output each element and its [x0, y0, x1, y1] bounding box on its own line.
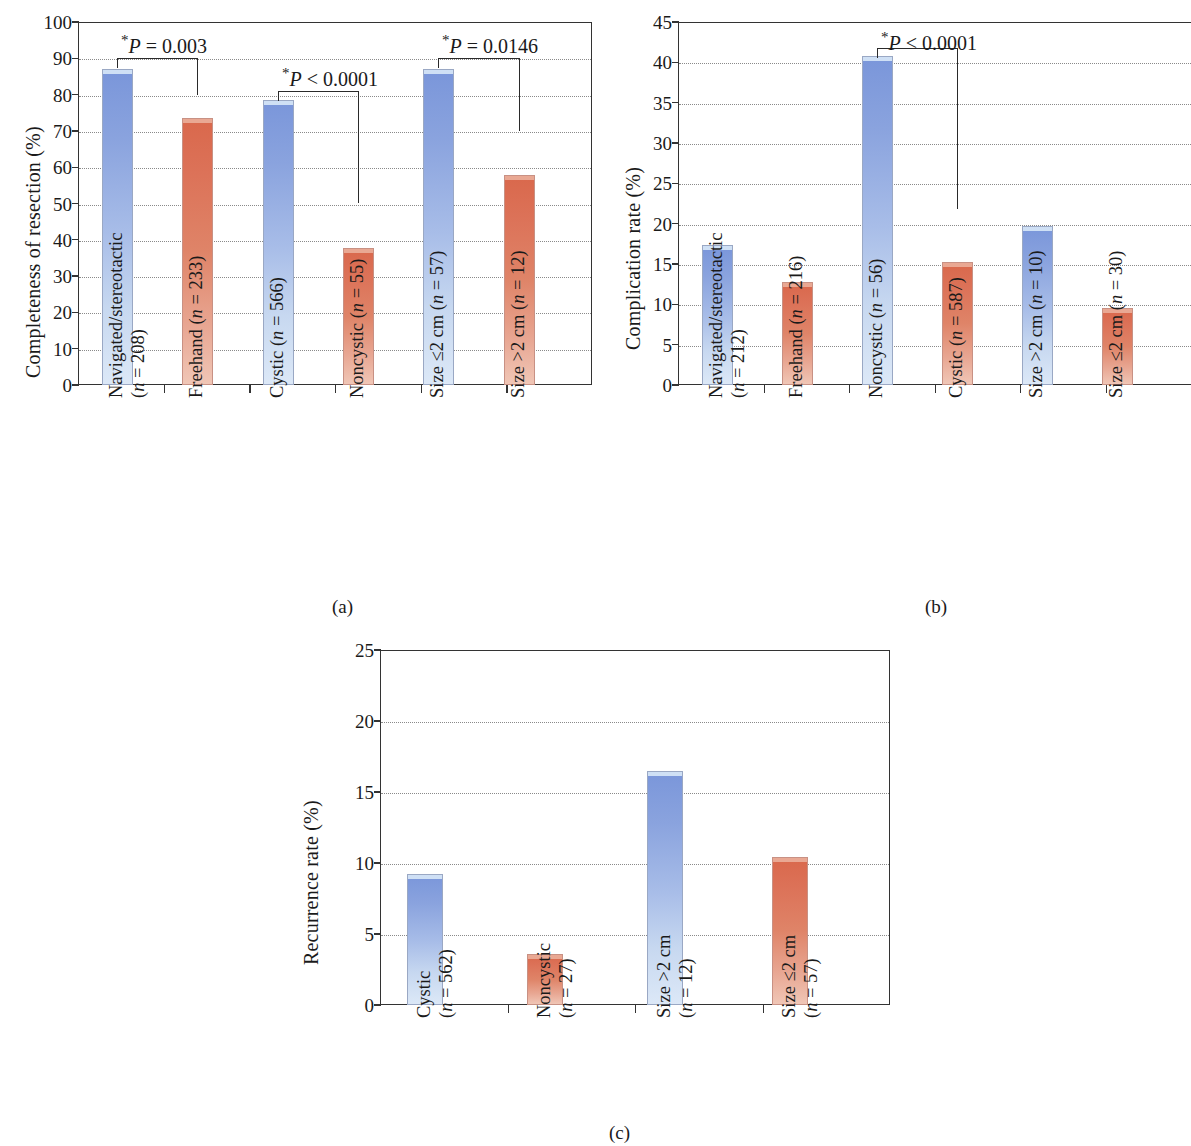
- x-label-line1: Size ≤2 cm (n = 30): [1106, 250, 1126, 398]
- y-tick-mark: [374, 649, 381, 650]
- y-tick-label: 30: [612, 134, 672, 153]
- gridline: [79, 132, 591, 133]
- bracket-right-stem: [197, 58, 198, 94]
- y-tick-label: 40: [612, 53, 672, 72]
- y-tick-label: 5: [612, 335, 672, 354]
- p-value-label: *P = 0.0146: [442, 33, 538, 56]
- gridline: [679, 104, 1191, 105]
- y-tick-label: 90: [12, 49, 72, 68]
- y-tick-label: 60: [12, 158, 72, 177]
- y-tick-mark: [72, 58, 79, 59]
- y-tick-label: 25: [314, 641, 374, 660]
- y-tick-mark: [72, 21, 79, 22]
- y-tick-mark: [672, 183, 679, 184]
- gridline: [679, 144, 1191, 145]
- x-label-line1: Noncystic (n = 55): [347, 259, 367, 398]
- x-label-line1: Size >2 cm (n = 12): [508, 250, 528, 398]
- x-category-label-3: Noncystic (n = 56): [866, 259, 888, 398]
- y-tick-label: 20: [612, 214, 672, 233]
- y-tick-mark: [672, 142, 679, 143]
- panel-caption: (a): [332, 596, 353, 618]
- x-category-label-2: Freehand (n = 216): [786, 256, 808, 398]
- bracket-left-stem: [877, 48, 878, 58]
- x-tick-mark: [764, 385, 765, 393]
- x-tick-mark: [421, 385, 422, 393]
- gridline: [679, 225, 1191, 226]
- y-tick-label: 40: [12, 230, 72, 249]
- bar-cap: [773, 858, 807, 862]
- y-tick-mark: [374, 791, 381, 792]
- gridline: [679, 63, 1191, 64]
- y-tick-label: 20: [314, 712, 374, 731]
- x-category-label-6: Size >2 cm (n = 12): [508, 250, 530, 398]
- y-tick-mark: [374, 1004, 381, 1005]
- x-label-line1: Size >2 cm: [654, 935, 674, 1018]
- bracket-horizontal: [117, 58, 197, 59]
- gridline: [381, 722, 889, 723]
- gridline: [381, 864, 889, 865]
- x-label-line1: Size ≤2 cm: [779, 935, 799, 1018]
- x-label-line1: Size >2 cm (n = 10): [1026, 250, 1046, 398]
- x-label-line2: (n = 57): [801, 935, 823, 1018]
- x-label-line2: (n = 562): [436, 949, 458, 1018]
- gridline: [79, 96, 591, 97]
- x-category-label-4: Cystic (n = 587): [946, 277, 968, 398]
- x-category-label-1: Navigated/stereotactic(n = 212): [706, 233, 750, 398]
- y-tick-mark: [672, 263, 679, 264]
- bar-cap: [183, 119, 212, 123]
- y-tick-mark: [672, 223, 679, 224]
- y-tick-mark: [72, 275, 79, 276]
- x-label-line2: (n = 12): [676, 935, 698, 1018]
- y-tick-mark: [72, 130, 79, 131]
- y-tick-mark: [374, 933, 381, 934]
- gridline: [381, 793, 889, 794]
- y-tick-label: 30: [12, 267, 72, 286]
- y-tick-label: 0: [12, 376, 72, 395]
- bar-cap: [264, 101, 293, 105]
- x-tick-mark: [763, 1005, 764, 1013]
- bar-cap: [505, 176, 534, 180]
- y-tick-label: 80: [12, 85, 72, 104]
- bracket-left-stem: [117, 58, 118, 68]
- x-label-line1: Cystic (n = 587): [946, 277, 966, 398]
- y-tick-mark: [374, 720, 381, 721]
- x-category-label-1: Cystic(n = 562): [414, 949, 458, 1018]
- x-label-line2: (n = 212): [728, 233, 750, 398]
- y-tick-mark: [672, 304, 679, 305]
- y-tick-label: 15: [314, 783, 374, 802]
- bracket-horizontal: [278, 91, 358, 92]
- x-label-line1: Noncystic: [534, 943, 554, 1018]
- y-tick-mark: [672, 102, 679, 103]
- bar-cap: [648, 772, 682, 776]
- x-label-line1: Size ≤2 cm (n = 57): [427, 250, 447, 398]
- x-label-line1: Cystic: [414, 971, 434, 1018]
- bar-cap: [424, 70, 453, 74]
- bracket-left-stem: [278, 91, 279, 101]
- y-tick-label: 100: [12, 13, 72, 32]
- x-label-line1: Cystic (n = 566): [267, 277, 287, 398]
- y-tick-label: 20: [12, 303, 72, 322]
- x-category-label-2: Freehand (n = 233): [186, 256, 208, 398]
- x-category-label-1: Navigated/stereotactic(n = 208): [106, 233, 150, 398]
- gridline: [79, 59, 591, 60]
- bracket-right-stem: [957, 48, 958, 209]
- x-label-line1: Freehand (n = 233): [186, 256, 206, 398]
- y-tick-mark: [374, 862, 381, 863]
- y-tick-label: 10: [12, 339, 72, 358]
- panel-caption: (b): [925, 596, 947, 618]
- y-tick-mark: [672, 344, 679, 345]
- x-tick-mark: [1020, 385, 1021, 393]
- x-category-label-6: Size ≤2 cm (n = 30): [1106, 250, 1128, 398]
- p-value-label: *P = 0.003: [121, 33, 207, 56]
- x-tick-mark: [508, 1005, 509, 1013]
- y-tick-mark: [72, 312, 79, 313]
- bracket-right-stem: [358, 91, 359, 204]
- p-value-label: *P < 0.0001: [881, 30, 977, 53]
- y-tick-mark: [72, 384, 79, 385]
- p-value-label: *P < 0.0001: [282, 66, 378, 89]
- x-label-line1: Freehand (n = 216): [786, 256, 806, 398]
- x-label-line1: Navigated/stereotactic: [706, 233, 726, 398]
- y-tick-mark: [72, 167, 79, 168]
- x-label-line1: Navigated/stereotactic: [106, 233, 126, 398]
- y-tick-label: 10: [612, 295, 672, 314]
